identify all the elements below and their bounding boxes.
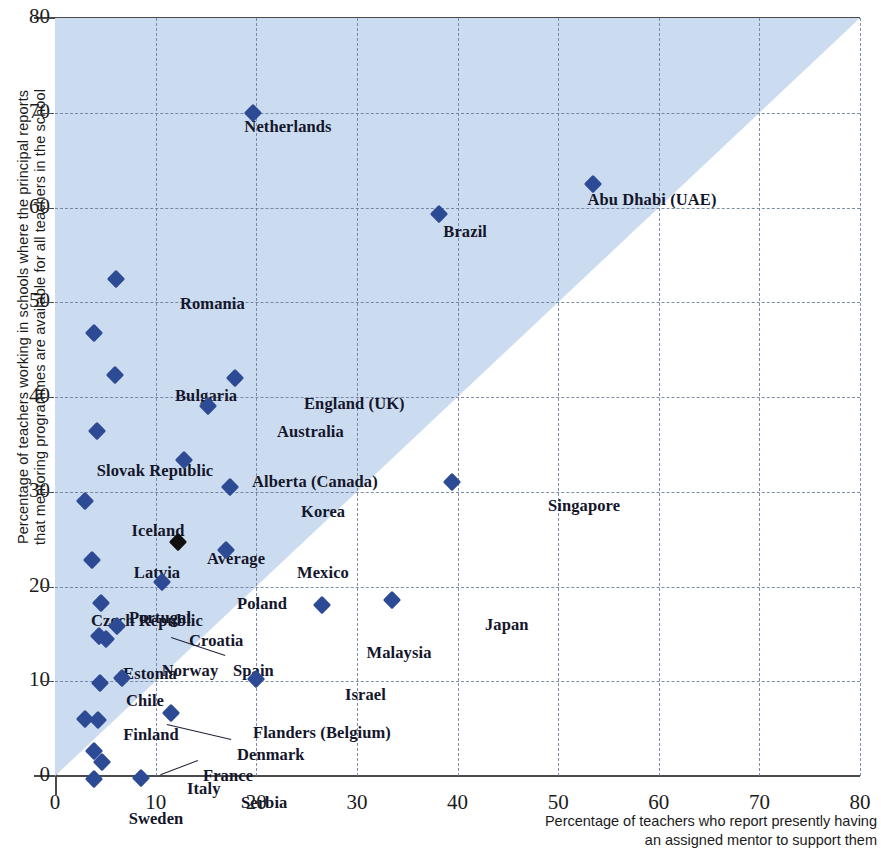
y-tick-label: 0 (2, 762, 50, 787)
data-point-label: Australia (277, 422, 344, 442)
x-tick-label: 10 (145, 790, 166, 815)
data-point-label: Singapore (548, 496, 620, 516)
x-axis-label-line2: an assigned mentor to support them (545, 831, 877, 850)
gridline-vertical (458, 18, 459, 776)
data-point-label: Croatia (189, 631, 243, 651)
data-point-label: Norway (162, 661, 219, 681)
data-point-label: Mexico (297, 563, 349, 583)
gridline-vertical (156, 18, 157, 776)
x-tick-label: 40 (447, 790, 468, 815)
data-point-label: Malaysia (367, 643, 432, 663)
gridline-vertical (759, 18, 760, 776)
gridline-vertical (558, 18, 559, 776)
data-point-label: Chile (126, 691, 164, 711)
data-point-label: Japan (485, 615, 529, 635)
y-axis-label: Percentage of teachers working in school… (15, 17, 49, 617)
gridline-vertical (860, 18, 861, 776)
x-tick-label: 30 (346, 790, 367, 815)
data-point-label: Flanders (Belgium) (253, 723, 391, 743)
data-point-label: Israel (345, 685, 386, 705)
y-axis-label-line1: Percentage of teachers working in school… (15, 17, 32, 617)
data-point-label: Finland (123, 725, 179, 745)
data-point-label: Netherlands (244, 117, 331, 137)
x-tick-label: 0 (50, 790, 61, 815)
data-point-label: Average (207, 549, 265, 569)
data-point-label: Romania (180, 294, 245, 314)
y-tick-label: 10 (2, 667, 50, 692)
data-point-label: Abu Dhabi (UAE) (588, 190, 717, 210)
plot-area: NetherlandsAbu Dhabi (UAE)BrazilRomaniaS… (55, 18, 860, 776)
data-point-label: Italy (187, 779, 221, 799)
data-point-label: England (UK) (304, 394, 405, 414)
y-axis-label-line2: that mentoring programmes are available … (32, 17, 49, 617)
x-axis-label: Percentage of teachers who report presen… (545, 812, 877, 850)
scatter-chart: NetherlandsAbu Dhabi (UAE)BrazilRomaniaS… (0, 0, 881, 854)
data-point-label: Slovak Republic (97, 461, 214, 481)
x-tick-label: 20 (246, 790, 267, 815)
data-point-label: Korea (301, 502, 345, 522)
gridline-vertical (659, 18, 660, 776)
data-point-label: Denmark (237, 745, 305, 765)
x-axis-label-line1: Percentage of teachers who report presen… (545, 812, 877, 831)
y-tick-mark (40, 681, 54, 682)
data-point-label: Poland (237, 594, 287, 614)
data-point-label: Alberta (Canada) (252, 472, 378, 492)
data-point-label: Portugal (129, 608, 191, 628)
data-point-label: Brazil (443, 222, 487, 242)
